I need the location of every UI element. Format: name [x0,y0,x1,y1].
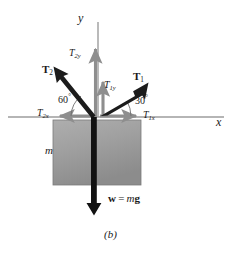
diagram-canvas [0,0,233,256]
angle-30-label: 30° [135,95,148,106]
axis-x-label: x [216,116,221,128]
angle-60-label: 60° [58,94,71,105]
vector-T2-label: T2 [42,64,53,75]
free-body-diagram-figure: y x T2 T1 T2y T1y T2x T1x 60° 30° m w = … [0,0,233,256]
axis-y-label: y [78,12,83,24]
figure-caption: (b) [104,229,117,240]
vector-T1y-label: T1y [104,80,116,90]
weight-equation-label: w = mg [108,193,140,204]
vector-T2x-label: T2x [37,108,49,118]
vector-T2 [54,67,96,119]
mass-label: m [45,145,53,156]
mass-block [53,120,141,185]
vector-T1-label: T1 [133,71,144,82]
vector-T2y-label: T2y [69,48,81,58]
vector-T1x-label: T1x [143,110,155,120]
